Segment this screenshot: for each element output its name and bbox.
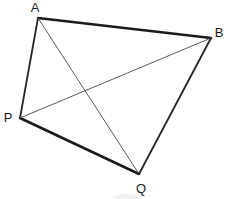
figure-canvas: [0, 0, 229, 199]
vertex-label-Q: Q: [136, 182, 146, 195]
edge-A-B: [38, 18, 211, 38]
vertex-label-A: A: [31, 1, 40, 14]
edge-group: [20, 18, 211, 174]
edge-B-Q: [139, 38, 211, 174]
vertex-label-P: P: [4, 111, 13, 124]
diagonal-P-B: [20, 38, 211, 118]
geometry-figure: A B P Q: [0, 0, 229, 199]
vertex-label-B: B: [215, 26, 224, 39]
edge-P-A: [20, 18, 38, 118]
